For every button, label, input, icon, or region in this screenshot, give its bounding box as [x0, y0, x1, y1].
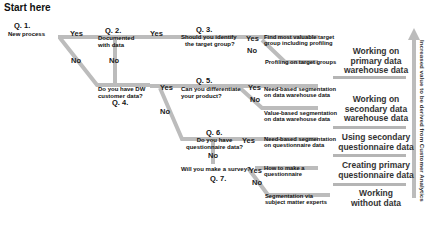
category-secondary-dw: Working on secondary data warehouse data — [326, 95, 426, 124]
separator-4 — [333, 183, 406, 186]
q6-number: Q. 6. — [206, 128, 222, 137]
q3-number: Q. 3. — [196, 25, 212, 34]
q3-line1: Should you identify — [181, 34, 237, 41]
q5-line2: your product? — [181, 93, 241, 100]
q6-line2: questionnaire data? — [186, 144, 243, 151]
outcome-sme-segmentation: Segmentation via subject matter experts — [265, 193, 327, 205]
category-primary-questionnaire: Creating primary questionnaire data — [326, 161, 426, 180]
separator-1 — [333, 76, 406, 79]
q4-line1: Do you have DW — [98, 86, 145, 93]
category-primary-dw: Working on primary data warehouse data — [326, 47, 426, 76]
q5-line1: Can you differentiate — [181, 86, 241, 93]
outcome-target-group: Find most valuable target group includin… — [264, 34, 334, 46]
value-axis-label: Increased value to be derived from Custo… — [419, 40, 426, 202]
cat-1-line3: warehouse data — [326, 66, 426, 76]
q3-line2: the target group? — [181, 41, 237, 48]
outcome-1-line2: group including profiling — [264, 40, 334, 46]
q1-number: Q. 1. — [14, 21, 30, 30]
q2-text: Documented with data — [98, 35, 134, 48]
cat-3-line2: questionnaire data — [326, 143, 426, 153]
cat-2-line3: warehouse data — [326, 114, 426, 124]
cat-4-line2: questionnaire data — [326, 171, 426, 181]
q4-number: Q. 4. — [112, 98, 128, 107]
q5-text: Can you differentiate your product? — [181, 86, 241, 99]
category-secondary-questionnaire: Using secondary questionnaire data — [326, 133, 426, 152]
q1-yes-label: Yes — [70, 29, 83, 38]
value-axis: Increased value to be derived from Custo… — [416, 40, 430, 195]
q1-no-label: No — [71, 56, 81, 65]
q2-line1: Documented — [98, 35, 134, 42]
separator-2 — [333, 126, 406, 129]
q2-no-label: No — [109, 56, 119, 65]
outcome-6-line2: questionnaire — [264, 171, 305, 177]
outcome-7-line2: subject matter experts — [265, 199, 327, 205]
q3-text: Should you identify the target group? — [181, 34, 237, 47]
separator-3 — [333, 154, 406, 157]
q2-yes-label: Yes — [150, 29, 163, 38]
category-without-data: Working without data — [326, 189, 426, 208]
q7-text: Will you make a survey? — [181, 166, 251, 173]
q2-number: Q. 2. — [105, 26, 121, 35]
q3-no-label: No — [247, 46, 257, 55]
outcome-make-questionnaire: How to make a questionnaire — [264, 165, 305, 177]
cat-5-line2: without data — [326, 199, 426, 209]
q6-no-label: No — [208, 151, 218, 160]
q5-yes-label: Yes — [248, 83, 261, 92]
start-here-title: Start here — [4, 5, 51, 12]
q5-no-label: No — [250, 95, 260, 104]
q6-text: Do you have questionnaire data? — [186, 137, 243, 150]
q3-yes-label: Yes — [246, 34, 259, 43]
q1-text: New process — [8, 31, 45, 38]
q4-no-label: No — [160, 107, 170, 116]
q4-yes-label: Yes — [160, 83, 173, 92]
q2-line2: with data — [98, 42, 134, 49]
q7-number: Q. 7. — [210, 174, 226, 183]
q7-no-label: No — [252, 178, 262, 187]
q7-yes-label: Yes — [249, 166, 262, 175]
q5-number: Q. 5. — [196, 76, 212, 85]
q6-yes-label: Yes — [242, 136, 255, 145]
